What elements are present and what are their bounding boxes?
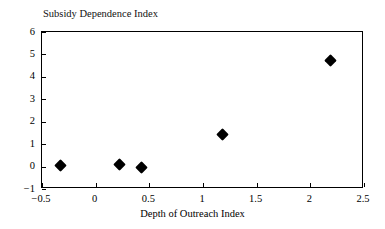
y-axis-tick	[42, 122, 46, 123]
scatter-chart-figure: Subsidy Dependence Index −10123456−0.500…	[0, 0, 385, 229]
y-axis-tick-label: 2	[11, 115, 35, 126]
data-point	[54, 159, 67, 172]
y-axis-tick-label: 1	[11, 138, 35, 149]
y-axis-tick-label: 3	[11, 93, 35, 104]
x-axis-tick-label: 1.5	[236, 193, 276, 204]
data-point	[216, 128, 229, 141]
y-axis-tick	[42, 189, 46, 190]
x-axis-tick	[149, 183, 150, 187]
x-axis-tick	[42, 183, 43, 187]
y-axis-tick	[42, 144, 46, 145]
x-axis-title: Depth of Outreach Index	[0, 208, 385, 220]
y-axis-tick	[42, 77, 46, 78]
x-axis-tick-label: −0.5	[21, 193, 61, 204]
y-axis-tick-label: 5	[11, 48, 35, 59]
x-axis-tick	[96, 183, 97, 187]
y-axis-tick-label: 4	[11, 70, 35, 81]
data-point	[113, 158, 126, 171]
plot-area	[42, 32, 362, 187]
x-axis-tick	[310, 183, 311, 187]
y-axis-tick-label: 6	[11, 26, 35, 37]
chart-title: Subsidy Dependence Index	[43, 8, 158, 20]
x-axis-tick-label: 1	[182, 193, 222, 204]
x-axis-tick-label: 2	[289, 193, 329, 204]
x-axis-tick-label: 0.5	[128, 193, 168, 204]
y-axis-tick-label: 0	[11, 160, 35, 171]
plot-frame	[41, 31, 363, 188]
x-axis-tick	[203, 183, 204, 187]
y-axis-tick	[42, 167, 46, 168]
x-axis-tick	[257, 183, 258, 187]
data-point	[135, 161, 148, 174]
x-axis-tick-label: 0	[75, 193, 115, 204]
y-axis-tick-label: −1	[11, 183, 35, 194]
y-axis-tick	[42, 32, 46, 33]
y-axis-tick	[42, 99, 46, 100]
x-axis-tick	[364, 183, 365, 187]
x-axis-tick-label: 2.5	[343, 193, 383, 204]
data-point	[324, 54, 337, 67]
y-axis-tick	[42, 54, 46, 55]
